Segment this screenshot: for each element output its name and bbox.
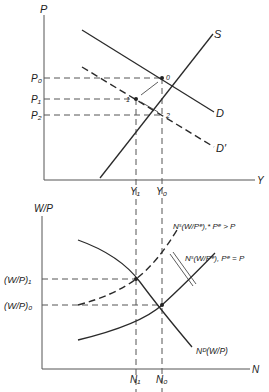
wp1-label: (W/P)₁: [4, 274, 31, 285]
shifted-demand-label: D′: [216, 142, 227, 154]
demand-label: D: [216, 107, 224, 119]
labor-point-1: [134, 277, 138, 281]
n1-label: N₁: [130, 374, 140, 385]
y1-label: Y₁: [130, 186, 140, 197]
p1-label: P₁: [31, 94, 41, 105]
real-wage-axis-label: W/P: [34, 203, 53, 214]
labor-point-0: [160, 303, 164, 307]
point-1-label: 1: [126, 96, 130, 103]
arrow-0-to-1: [141, 82, 158, 95]
p2-label: P₂: [31, 110, 42, 121]
y0-label: Y₀: [156, 186, 167, 197]
top-panel: P Y 0 1 2 S D D′ P₀ P₁ P₂ Y₁ Y₀: [31, 3, 265, 392]
point-2-label: 2: [165, 112, 170, 119]
supply-curve: [100, 34, 213, 178]
shifted-demand-curve: [82, 67, 214, 147]
point-0-label: 0: [166, 74, 170, 81]
p0-label: P₀: [31, 73, 42, 84]
labor-demand-label: Nᴰ(W/P): [196, 346, 228, 356]
price-axis-label: P: [40, 3, 48, 15]
labor-supply-label: Nˢ(W/Pᵉ), Pᵉ = P: [185, 254, 245, 263]
bottom-panel: W/P N Nˢ(W/Pᵉ),* Pᵉ > P Nˢ(W/Pᵉ), Pᵉ = P…: [4, 200, 260, 385]
supply-label: S: [214, 28, 222, 40]
n0-label: N₀: [156, 374, 167, 385]
employment-axis-label: N: [252, 364, 260, 375]
output-axis-label: Y: [257, 175, 265, 186]
aggregate-supply-demand-diagram: P Y 0 1 2 S D D′ P₀ P₁ P₂ Y₁ Y₀ W/P: [0, 0, 269, 392]
equilibrium-point-0: [160, 76, 164, 80]
demand-curve: [82, 30, 214, 112]
equilibrium-point-1: [134, 97, 138, 101]
wp0-label: (W/P)₀: [4, 300, 32, 311]
labor-supply-curve: [78, 253, 215, 340]
labor-supply-shifted-label: Nˢ(W/Pᵉ),* Pᵉ > P: [173, 222, 236, 231]
